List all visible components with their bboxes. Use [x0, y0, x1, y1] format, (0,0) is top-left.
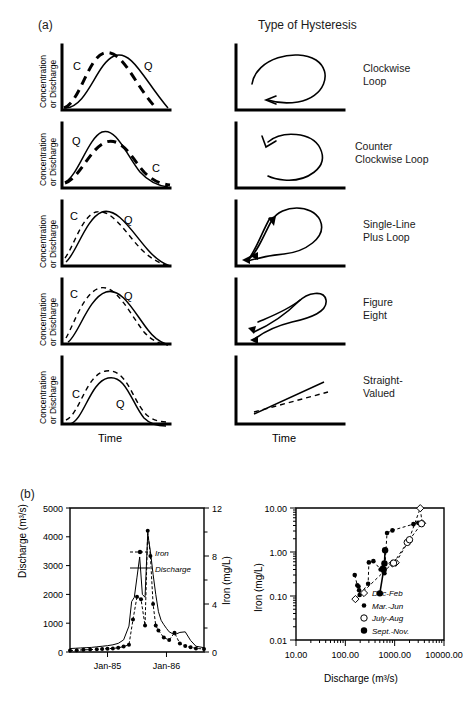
y-axis-label-line2: or Discharge: [48, 376, 58, 424]
x-axis-label-left: Time: [98, 432, 122, 444]
row-4-loop-plot: [228, 276, 348, 354]
timeseries-data: [68, 529, 206, 653]
type-label-2-line2: Clockwise Loop: [355, 153, 429, 166]
svg-text:Jan-85: Jan-85: [94, 661, 122, 671]
row-4-timeseries-plot: C Q Concentration or Discharge: [40, 276, 175, 354]
panel-b-tag: (b): [20, 487, 35, 501]
svg-text:Iron: Iron: [155, 549, 169, 558]
svg-text:4000: 4000: [43, 532, 63, 542]
y-axis-label-line2: or Discharge: [48, 220, 58, 268]
curve-label-c: C: [152, 162, 160, 174]
curve-label-c: C: [70, 288, 78, 300]
curve-label-q: Q: [124, 214, 133, 226]
row-5-loop-plot: Time: [228, 354, 348, 446]
type-label-3-line2: Plus Loop: [363, 231, 416, 244]
scatter-data: [352, 505, 426, 603]
panel-a-tag: (a): [38, 18, 53, 32]
svg-text:2000: 2000: [43, 590, 63, 600]
type-label-4-line1: Figure: [363, 296, 393, 309]
svg-text:10000.00: 10000.00: [425, 650, 463, 660]
curve-label-q: Q: [72, 135, 81, 147]
y-axis-label-line2: or Discharge: [48, 298, 58, 346]
curve-label-c: C: [70, 210, 78, 222]
svg-text:Sept.-Nov.: Sept.-Nov.: [372, 627, 409, 636]
curve-label-c: C: [73, 60, 81, 72]
iron-discharge-scatter-chart: 10.00100.001000.0010000.00 0.010.101.001…: [248, 500, 466, 700]
svg-text:100.00: 100.00: [332, 650, 360, 660]
scatter-legend: Dec-FebMar.-JunJuly-AugSept.-Nov.: [360, 589, 409, 636]
y-axis-label-line2: or Discharge: [48, 138, 58, 186]
right-y-axis-label: Iron (mg/L): [221, 556, 232, 605]
y-axis-label-line1: Concentration: [38, 133, 48, 186]
type-label-5-line1: Straight-: [363, 374, 403, 387]
svg-text:8: 8: [212, 552, 217, 562]
svg-text:July-Aug: July-Aug: [371, 614, 404, 623]
row-1-loop-plot: [228, 42, 348, 120]
type-label-1-line1: Clockwise: [363, 62, 410, 75]
discharge-iron-timeseries-chart: 010002000300040005000 04812 Jan-85Jan-86…: [14, 500, 234, 695]
row-5-timeseries-plot: C Q Concentration or Discharge Time: [40, 354, 175, 446]
row-2-timeseries-plot: Q C Concentration or Discharge: [40, 120, 175, 198]
y-axis-label-line1: Concentration: [38, 55, 48, 108]
curve-label-q: Q: [144, 60, 153, 72]
svg-text:1000: 1000: [43, 619, 63, 629]
type-label-2-line1: Counter: [355, 140, 429, 153]
svg-text:Jan-86: Jan-86: [153, 661, 181, 671]
type-label-4: Figure Eight: [363, 296, 393, 322]
row-1-timeseries-plot: C Q Concentration or Discharge: [40, 42, 175, 120]
type-label-2: Counter Clockwise Loop: [355, 140, 429, 166]
y-axis-label-line1: Concentration: [38, 371, 48, 424]
type-label-3-line1: Single-Line: [363, 218, 416, 231]
svg-text:4: 4: [212, 600, 217, 610]
y-axis-label-line2: or Discharge: [48, 60, 58, 108]
curve-label-q: Q: [116, 398, 125, 410]
scatter-x-ticks: 10.00100.001000.0010000.00: [285, 640, 463, 660]
svg-text:0.01: 0.01: [269, 636, 287, 646]
curve-label-c: C: [72, 388, 80, 400]
scatter-y-axis-label: Iron (mg/L): [253, 563, 264, 612]
left-axis-ticks: 010002000300040005000 04812: [43, 504, 222, 658]
svg-text:Discharge: Discharge: [155, 565, 192, 574]
svg-text:Dec-Feb: Dec-Feb: [372, 589, 403, 598]
scatter-y-ticks: 0.010.101.0010.00: [264, 504, 296, 646]
x-axis-label-right: Time: [272, 432, 296, 444]
svg-text:12: 12: [212, 504, 222, 514]
type-label-1-line2: Loop: [363, 75, 410, 88]
svg-text:0.10: 0.10: [269, 592, 287, 602]
figure-root: (a) Type of Hysteresis C Q Concentration…: [0, 0, 470, 710]
row-3-loop-plot: [228, 198, 348, 276]
svg-text:1.00: 1.00: [269, 548, 287, 558]
svg-text:3000: 3000: [43, 561, 63, 571]
svg-text:10.00: 10.00: [264, 504, 287, 514]
type-label-4-line2: Eight: [363, 309, 393, 322]
left-y-axis-label: Discharge (m³/s): [17, 504, 28, 578]
svg-text:0: 0: [212, 648, 217, 658]
type-label-5-line2: Valued: [363, 387, 403, 400]
scatter-x-axis-label: Discharge (m³/s): [324, 673, 398, 684]
x-axis-ticks: Jan-85Jan-86: [94, 652, 180, 671]
y-axis-label-line1: Concentration: [38, 215, 48, 268]
svg-text:1000.00: 1000.00: [378, 650, 411, 660]
type-label-1: Clockwise Loop: [363, 62, 410, 88]
svg-text:10.00: 10.00: [285, 650, 308, 660]
svg-text:0: 0: [58, 648, 63, 658]
svg-text:Mar.-Jun: Mar.-Jun: [372, 602, 404, 611]
row-2-loop-plot: [228, 120, 348, 198]
type-label-3: Single-Line Plus Loop: [363, 218, 416, 244]
curve-label-q: Q: [124, 290, 133, 302]
svg-text:5000: 5000: [43, 504, 63, 514]
column-header: Type of Hysteresis: [258, 18, 357, 32]
row-3-timeseries-plot: C Q Concentration or Discharge: [40, 198, 175, 276]
type-label-5: Straight- Valued: [363, 374, 403, 400]
y-axis-label-line1: Concentration: [38, 293, 48, 346]
